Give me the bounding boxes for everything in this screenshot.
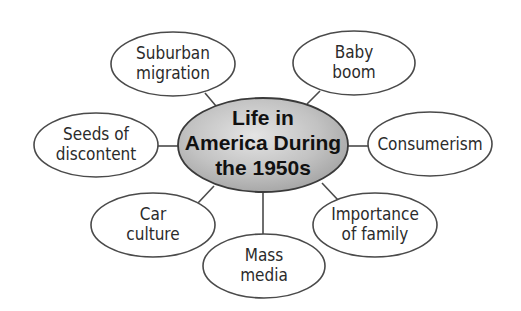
center-title-line: Life in — [232, 106, 294, 129]
connector-importance-of-family — [322, 183, 338, 200]
node-baby-boom: Baby boom — [293, 31, 415, 95]
node-label-line: Car — [140, 204, 167, 224]
center-node: Life in America During the 1950s — [178, 98, 348, 192]
node-mass-media: Mass media — [203, 234, 325, 298]
node-car-culture: Car culture — [91, 193, 215, 257]
node-importance-of-family: Importance of family — [313, 193, 437, 257]
node-label-line: migration — [136, 63, 210, 83]
node-label-line: Importance — [331, 204, 419, 224]
node-label-line: media — [240, 265, 288, 285]
node-label-line: Suburban — [136, 43, 210, 63]
node-label-line: discontent — [56, 144, 136, 164]
node-label-line: boom — [332, 62, 375, 82]
node-label-line: Consumerism — [377, 134, 482, 154]
node-label-line: of family — [342, 224, 409, 244]
node-seeds-of-discontent: Seeds of discontent — [34, 113, 158, 177]
concept-web-diagram: Suburban migration Baby boom Seeds of di… — [0, 0, 521, 311]
node-label-line: Mass — [245, 245, 284, 265]
node-label-line: culture — [126, 224, 179, 244]
center-title-line: America During — [185, 131, 341, 154]
node-consumerism: Consumerism — [368, 112, 492, 176]
node-label-line: Seeds of — [63, 124, 129, 144]
connector-car-culture — [198, 186, 214, 203]
center-title-line: the 1950s — [215, 156, 311, 179]
connector-baby-boom — [307, 91, 320, 104]
node-suburban-migration: Suburban migration — [111, 32, 235, 96]
node-label-line: Baby — [335, 42, 374, 62]
connector-suburban-migration — [205, 93, 216, 106]
